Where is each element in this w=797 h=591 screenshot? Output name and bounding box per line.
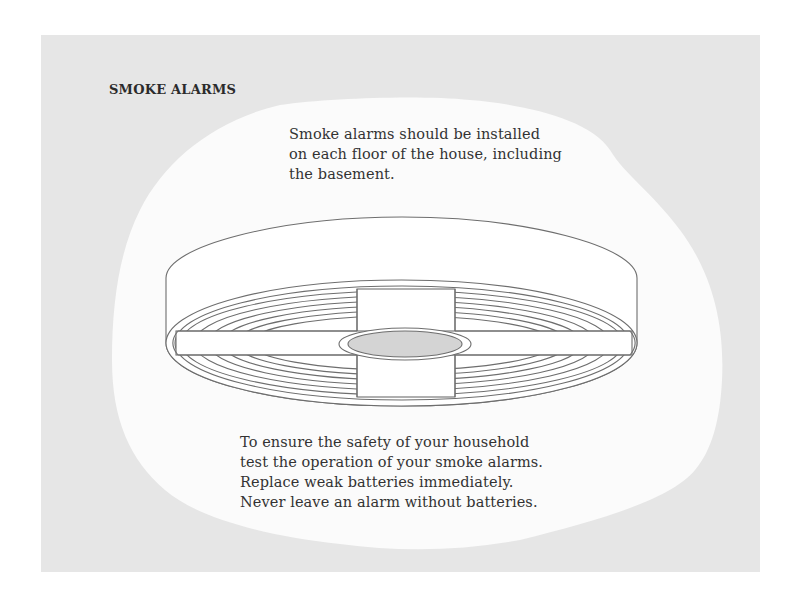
install-note-line: on each floor of the house, including [289, 144, 562, 164]
maintenance-note-line: To ensure the safety of your household [240, 432, 529, 452]
page-title: SMOKE ALARMS [109, 82, 236, 97]
maintenance-note-line: Replace weak batteries immediately. [240, 472, 513, 492]
grill-center [348, 331, 462, 357]
smoke-alarm-illustration [166, 217, 637, 406]
install-note-line: the basement. [289, 164, 395, 184]
maintenance-note-line: test the operation of your smoke alarms. [240, 452, 543, 472]
maintenance-note-line: Never leave an alarm without batteries. [240, 492, 538, 512]
smoke-alarm-info-panel: SMOKE ALARMS Smoke alarms should be inst… [0, 0, 797, 591]
install-note-line: Smoke alarms should be installed [289, 124, 540, 144]
